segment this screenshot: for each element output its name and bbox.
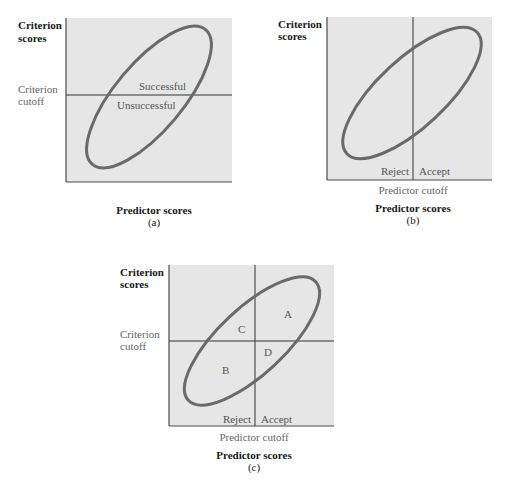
predictor-cutoff-label: Predictor cutoff	[219, 431, 288, 443]
quadrant-c: C	[238, 323, 245, 335]
x-axis-label: Predictor scores	[216, 449, 292, 461]
region-unsuccessful: Unsuccessful	[117, 99, 176, 111]
panel-caption: (a)	[148, 216, 161, 229]
criterion-cutoff-label: Criterion	[120, 328, 160, 340]
y-axis-label-2: scores	[120, 278, 149, 290]
panel-b: Criterion scores Reject Accept Predictor…	[278, 7, 500, 227]
predictor-cutoff-label: Predictor cutoff	[378, 184, 447, 196]
region-accept: Accept	[419, 165, 450, 177]
region-successful: Successful	[139, 80, 186, 92]
panel-a: Criterion scores Criterion cutoff Succes…	[18, 8, 232, 229]
quadrant-b: B	[222, 364, 229, 376]
criterion-cutoff-label-2: cutoff	[18, 95, 44, 107]
quadrant-a: A	[284, 308, 292, 320]
figure-canvas: Criterion scores Criterion cutoff Succes…	[0, 0, 516, 484]
region-reject: Reject	[223, 413, 251, 425]
criterion-cutoff-label-2: cutoff	[120, 340, 146, 352]
criterion-cutoff-label: Criterion	[18, 83, 58, 95]
region-accept: Accept	[261, 413, 292, 425]
panel-caption: (c)	[248, 461, 261, 474]
x-axis-label: Predictor scores	[116, 204, 192, 216]
y-axis-label: Criterion	[120, 266, 164, 278]
x-axis-label: Predictor scores	[375, 202, 451, 214]
y-axis-label-2: scores	[278, 30, 307, 42]
panel-c: Criterion scores Criterion cutoff A C D …	[120, 258, 338, 474]
region-reject: Reject	[381, 165, 409, 177]
y-axis-label: Criterion	[278, 18, 322, 30]
y-axis-label-2: scores	[18, 32, 47, 44]
quadrant-d: D	[264, 346, 272, 358]
panel-caption: (b)	[407, 214, 420, 227]
y-axis-label: Criterion	[18, 19, 62, 31]
plot-area	[169, 265, 334, 426]
